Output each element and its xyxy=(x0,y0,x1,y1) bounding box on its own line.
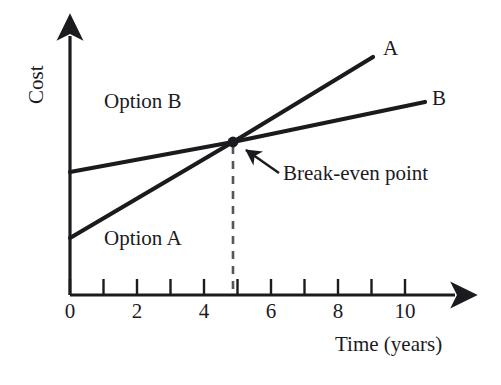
x-tick-label-6: 6 xyxy=(257,301,285,322)
y-axis-title: Cost xyxy=(26,65,47,104)
x-tick-label-4: 4 xyxy=(190,301,218,322)
series-label-a: A xyxy=(383,38,398,59)
x-axis-title: Time (years) xyxy=(335,334,442,355)
region-label-option-b: Option B xyxy=(104,91,182,112)
x-tick-label-0: 0 xyxy=(56,301,84,322)
series-label-b: B xyxy=(432,88,446,109)
x-tick-label-8: 8 xyxy=(324,301,352,322)
break-even-chart: Cost Time (years) 0 2 4 6 8 10 A B Optio… xyxy=(0,0,501,385)
break-even-marker xyxy=(228,137,239,148)
series-line-a xyxy=(70,57,373,238)
x-tick-label-10: 10 xyxy=(385,301,425,322)
x-tick-label-2: 2 xyxy=(123,301,151,322)
chart-canvas xyxy=(0,0,501,385)
x-axis-ticks xyxy=(70,279,405,295)
region-label-option-a: Option A xyxy=(104,228,182,249)
break-even-annotation-label: Break-even point xyxy=(283,163,428,184)
break-even-leader-arrow xyxy=(246,150,279,173)
